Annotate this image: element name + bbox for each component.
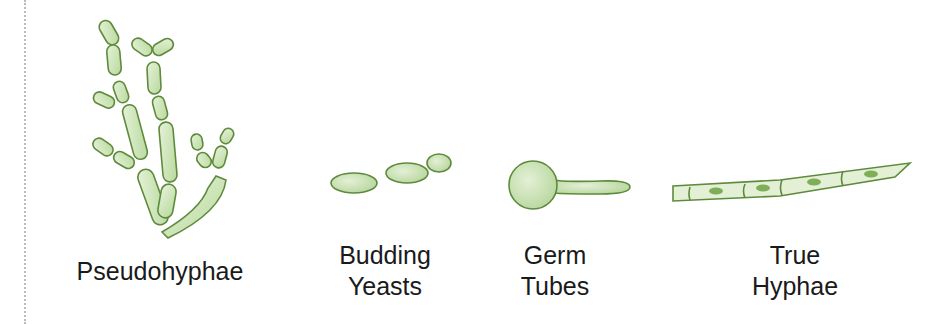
label-budding-yeasts: Budding Yeasts	[320, 240, 450, 302]
label-line: Yeasts	[320, 271, 450, 302]
label-germ-tubes: Germ Tubes	[500, 240, 610, 302]
pseudohyphae-icon	[91, 18, 236, 238]
budding-yeast-icon	[331, 154, 451, 193]
label-true-hyphae: True Hyphae	[730, 240, 860, 302]
label-line: Pseudohyphae	[55, 256, 265, 287]
germ-tube-icon	[509, 161, 630, 209]
label-line: True	[730, 240, 860, 271]
label-line: Tubes	[500, 271, 610, 302]
label-line: Budding	[320, 240, 450, 271]
true-hyphae-icon	[673, 163, 910, 201]
label-line: Germ	[500, 240, 610, 271]
label-line: Hyphae	[730, 271, 860, 302]
label-pseudohyphae: Pseudohyphae	[55, 256, 265, 287]
